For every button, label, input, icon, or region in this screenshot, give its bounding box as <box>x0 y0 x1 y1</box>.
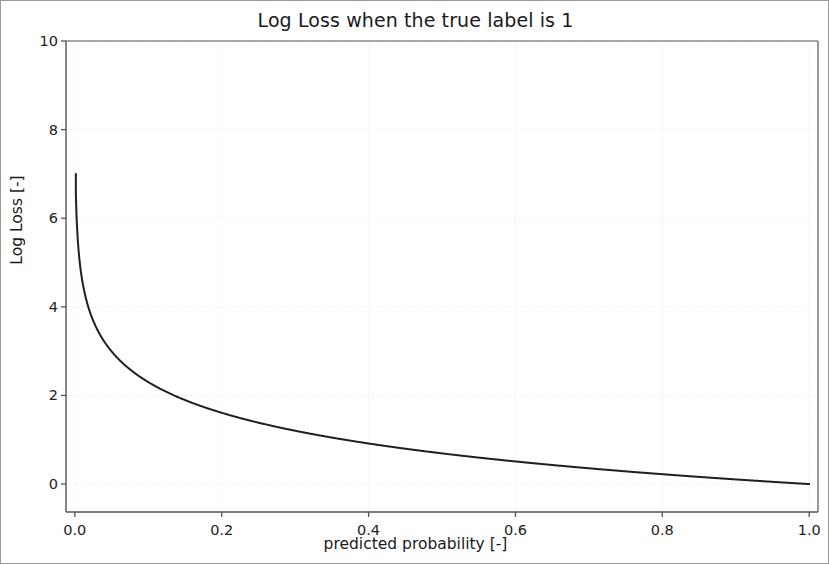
y-tick-label: 8 <box>10 122 58 138</box>
x-axis-label: predicted probability [-] <box>1 535 829 553</box>
y-tick-label: 2 <box>10 387 58 403</box>
y-tick-label: 4 <box>10 299 58 315</box>
y-tick-label: 10 <box>10 33 58 49</box>
axes-spines <box>66 41 818 512</box>
plot-area <box>1 1 829 564</box>
log-loss-curve <box>76 174 809 484</box>
y-tick-label: 0 <box>10 476 58 492</box>
figure-canvas: Log Loss when the true label is 1 024681… <box>0 0 829 564</box>
y-axis-label: Log Loss [-] <box>8 140 26 300</box>
tick-marks <box>61 41 809 517</box>
gridlines <box>66 41 818 512</box>
